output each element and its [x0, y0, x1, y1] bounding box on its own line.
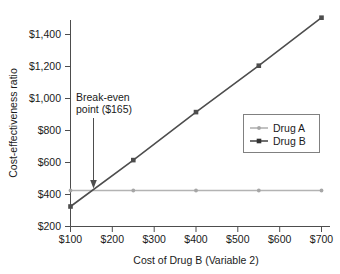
y-tick-label-800: $800 — [38, 124, 62, 136]
chart-legend[interactable]: Drug A Drug B — [244, 115, 320, 153]
chart-canvas: $1,400 $1,200 $1,000 $800 $600 $400 $200… — [0, 0, 340, 274]
x-tick-label-500: $500 — [226, 233, 250, 245]
y-axis-title: Cost-effectiveness ratio — [7, 68, 19, 178]
drug-a-point-1 — [69, 189, 73, 193]
drug-b-point-5 — [319, 15, 324, 20]
legend-box — [244, 115, 320, 153]
x-tick-label-200: $200 — [101, 233, 125, 245]
x-tick-label-400: $400 — [184, 233, 208, 245]
drug-b-point-3 — [194, 110, 199, 115]
y-tick-label-1400: $1,400 — [29, 28, 61, 40]
cost-effectiveness-chart: $1,400 $1,200 $1,000 $800 $600 $400 $200… — [0, 0, 340, 274]
y-tick-label-200: $200 — [38, 220, 62, 232]
break-even-label-line2: point ($165) — [76, 103, 132, 115]
y-tick-label-400: $400 — [38, 188, 62, 200]
x-tick-label-700: $700 — [310, 233, 334, 245]
drug-a-point-4 — [257, 189, 261, 193]
legend-marker-drug-a-icon — [257, 126, 261, 130]
x-tick-label-300: $300 — [143, 233, 167, 245]
drug-a-point-3 — [194, 189, 198, 193]
drug-a-point-5 — [320, 189, 324, 193]
legend-marker-drug-b-icon — [257, 139, 262, 144]
x-tick-label-100: $100 — [59, 233, 83, 245]
drug-a-point-2 — [131, 189, 135, 193]
x-tick-marks — [71, 227, 322, 233]
drug-b-point-2 — [131, 158, 136, 163]
y-tick-label-1200: $1,200 — [29, 60, 61, 72]
series-drug-a — [69, 189, 324, 193]
drug-b-point-4 — [257, 63, 262, 68]
drug-b-point-1 — [68, 204, 73, 209]
y-tick-label-600: $600 — [38, 156, 62, 168]
break-even-annotation: Break-even point ($165) — [76, 91, 132, 189]
legend-label-drug-a: Drug A — [273, 122, 305, 134]
x-tick-label-600: $600 — [268, 233, 292, 245]
x-axis-title: Cost of Drug B (Variable 2) — [133, 254, 258, 266]
break-even-label-line1: Break-even — [76, 91, 130, 103]
legend-label-drug-b: Drug B — [273, 135, 306, 147]
y-tick-label-1000: $1,000 — [29, 92, 61, 104]
y-tick-marks — [65, 35, 71, 227]
